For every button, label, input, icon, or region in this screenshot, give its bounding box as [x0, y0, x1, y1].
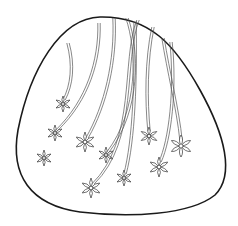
vine-stem-line [88, 18, 115, 138]
vine-stem-line [86, 18, 113, 138]
flower-icon [56, 96, 70, 112]
vine-stem-line [58, 23, 100, 130]
flower-icon [171, 135, 190, 157]
vine-v10 [150, 42, 174, 177]
flower-icon [48, 125, 62, 141]
vine-stem-line [161, 42, 174, 162]
vine-stem-line [56, 23, 98, 130]
vine-v3 [37, 150, 51, 166]
vine-stem-line [92, 20, 137, 184]
flower-icon [76, 132, 93, 152]
vine-stem-line [94, 20, 139, 184]
coloring-page-artwork [0, 0, 238, 226]
flower-icon [150, 157, 167, 177]
vine-v8 [141, 27, 157, 145]
vine-stem-line [159, 42, 172, 162]
flower-icon [141, 127, 157, 145]
flower-vines-group [37, 18, 190, 198]
flower-icon [37, 150, 51, 166]
vine-v1 [56, 43, 73, 112]
egg-shape-outline [16, 17, 225, 215]
vine-v4 [76, 18, 115, 152]
flower-icon [117, 170, 131, 186]
vine-v6 [82, 20, 139, 198]
